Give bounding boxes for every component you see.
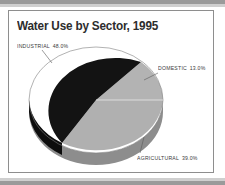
pie-label-industrial-name: INDUSTRIAL (17, 43, 50, 49)
pie-label-domestic: DOMESTIC13.0% (158, 65, 206, 71)
pie-label-domestic-name: DOMESTIC (158, 65, 187, 71)
pie-label-industrial-value: 48.0% (53, 43, 69, 49)
page-edge-bar-bottom (0, 181, 225, 185)
pie-label-domestic-value: 13.0% (190, 65, 206, 71)
pie-label-agricultural: AGRICULTURAL39.0% (137, 155, 198, 161)
pie-label-industrial: INDUSTRIAL48.0% (17, 43, 68, 49)
figure-container: Water Use by Sector, 1995 (0, 0, 225, 185)
pie-label-agricultural-name: AGRICULTURAL (137, 155, 179, 161)
pie-label-agricultural-value: 39.0% (182, 155, 198, 161)
leader-line-industrial (42, 50, 52, 63)
